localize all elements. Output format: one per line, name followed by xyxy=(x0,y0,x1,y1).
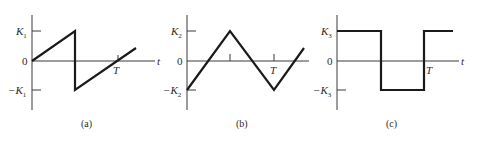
label-zero-a: 0 xyxy=(22,55,28,67)
label-period-a: T xyxy=(113,64,120,76)
waveform-figure: K1 0 −K1 T t (a) K2 0 −K2 T (b) K3 0 −K3… xyxy=(0,0,479,144)
caption-c: (c) xyxy=(386,118,397,130)
label-pos-c: K3 xyxy=(320,25,332,40)
panel-c: K3 0 −K3 T t (c) xyxy=(313,15,465,130)
label-neg-a: −K1 xyxy=(8,84,27,99)
panel-a: K1 0 −K1 T t (a) xyxy=(8,15,161,130)
panel-b: K2 0 −K2 T (b) xyxy=(163,15,309,130)
label-neg-c: −K3 xyxy=(313,84,332,99)
label-neg-b: −K2 xyxy=(163,84,182,99)
caption-b: (b) xyxy=(236,118,248,130)
label-period-c: T xyxy=(426,64,433,76)
caption-a: (a) xyxy=(81,118,92,130)
label-time-a: t xyxy=(157,55,161,67)
label-time-c: t xyxy=(461,55,465,67)
label-period-b: T xyxy=(270,64,277,76)
label-zero-b: 0 xyxy=(177,55,183,67)
label-zero-c: 0 xyxy=(327,55,333,67)
label-pos-b: K2 xyxy=(170,25,182,40)
label-pos-a: K1 xyxy=(15,25,27,40)
